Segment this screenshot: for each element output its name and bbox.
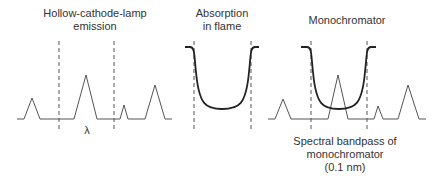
title-line: Hollow-cathode-lamp [43, 7, 146, 20]
flame-absorption-title: Absorption in flame [196, 7, 249, 33]
monochromator-title: Monochromator [308, 14, 385, 27]
dashed-guides [59, 41, 367, 131]
caption-line: (0.1 nm) [293, 161, 396, 174]
title-line: Absorption [196, 7, 249, 20]
lamp-emission-title: Hollow-cathode-lamp emission [43, 7, 146, 33]
title-line: Monochromator [308, 14, 385, 27]
monochromator-spectrum [268, 75, 426, 119]
caption-line: monochromator [293, 148, 396, 161]
title-line: emission [43, 20, 146, 33]
wavelength-symbol: λ [84, 124, 90, 137]
caption-line: Spectral bandpass of [293, 135, 396, 148]
flame-absorption-profile [185, 47, 259, 109]
bandpass-caption: Spectral bandpass of monochromator (0.1 … [293, 135, 396, 174]
lamp-emission-spectrum [17, 75, 172, 119]
title-line: in flame [196, 20, 249, 33]
